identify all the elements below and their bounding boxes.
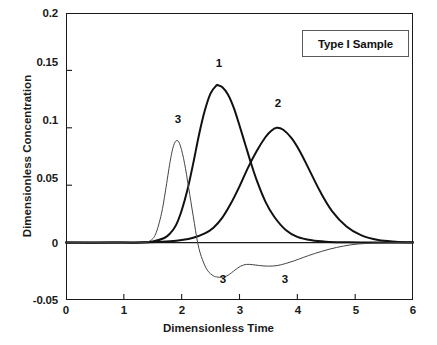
chart-figure: 0.2 0.15 0.1 0.05 0 -0.05 0 1 2 3 4 5 6 … [0,0,437,345]
xtick-label-1: 1 [114,304,134,316]
xtick-label-4: 4 [288,304,308,316]
xtick-label-6: 6 [403,304,423,316]
ytick-label-0: 0.2 [8,7,58,19]
xtick-label-2: 2 [172,304,192,316]
ytick-label-2: 0.1 [8,114,58,126]
curve-series-2 [66,128,413,243]
curve-annotation-3b: 3 [216,273,230,285]
ytick-label-3: 0.05 [8,172,58,184]
xtick-label-0: 0 [56,304,76,316]
curve-series-3 [66,140,413,277]
curve-series-1 [66,85,413,243]
x-axis-title: Dimensionless Time [0,322,437,334]
ytick-label-5: -0.05 [4,294,58,306]
curve-annotation-3c: 3 [278,273,292,285]
sample-type-box: Type I Sample [302,30,409,57]
curve-annotation-3a: 3 [171,113,185,125]
y-axis-title: Dimensionless Concentration [21,66,33,246]
curve-annotation-2: 2 [271,97,285,109]
ytick-label-1: 0.15 [8,56,58,68]
xtick-label-5: 5 [346,304,366,316]
ytick-label-4: 0 [8,237,58,249]
xtick-label-3: 3 [230,304,250,316]
axis-tick-marks [66,70,355,300]
curve-annotation-1: 1 [212,57,226,69]
